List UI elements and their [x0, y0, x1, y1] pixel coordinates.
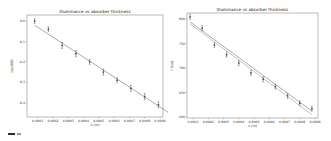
y-tick-label: 750 [179, 42, 185, 46]
toolbar-icon [8, 133, 15, 135]
x-tick-label: 0.0007 [124, 119, 135, 123]
data-point [89, 59, 91, 64]
x-tick-label: 0.0009 [154, 119, 165, 123]
data-point [226, 52, 228, 57]
x-tick-label: 0.0004 [78, 119, 89, 123]
fit-line [35, 25, 168, 115]
y-tick-label: -0.2 [19, 60, 25, 64]
x-tick-label: 0.0001 [188, 120, 199, 124]
x-tick-label: 0.0008 [139, 119, 150, 123]
y-tick-label: -0.1 [19, 40, 25, 44]
x-tick-label: 0.0006 [109, 119, 120, 123]
data-point [201, 26, 203, 31]
toolbar-icon [17, 133, 21, 135]
fit-line [190, 22, 312, 111]
x-tick-label: 0.0005 [248, 120, 259, 124]
x-axis-label: x (m) [90, 123, 100, 127]
x-tick-label: 0.0002 [47, 119, 58, 123]
y-tick-label: 650 [179, 91, 185, 95]
data-point [214, 42, 216, 47]
data-point [189, 14, 191, 19]
figure-left: Illuminance vs absorber thickness0.00010… [0, 0, 168, 141]
x-tick-label: 0.0001 [32, 119, 43, 123]
x-tick-label: 0.0002 [203, 120, 214, 124]
figure-right: Illuminance vs absorber thickness0.00010… [168, 0, 331, 141]
x-tick-label: 0.0004 [233, 120, 244, 124]
data-point [34, 19, 36, 24]
plot-frame [27, 15, 163, 117]
x-tick-label: 0.0006 [264, 120, 275, 124]
fit-line [190, 24, 312, 115]
x-tick-label: 0.0007 [279, 120, 290, 124]
chart-illuminance: Illuminance vs absorber thickness0.00010… [168, 0, 331, 141]
y-axis-label: log(I/I0) [10, 59, 14, 73]
x-tick-label: 0.0005 [93, 119, 104, 123]
y-axis-label: I (lux) [170, 60, 174, 70]
y-tick-label: -0.4 [19, 101, 25, 105]
plot-frame [187, 13, 318, 118]
x-tick-label: 0.0009 [309, 120, 320, 124]
output-toolbar [8, 133, 20, 136]
y-tick-label: 0.0 [20, 19, 25, 23]
data-point [238, 61, 240, 66]
x-tick-label: 0.0003 [63, 119, 74, 123]
y-tick-label: 800 [179, 17, 185, 21]
data-point [47, 27, 49, 32]
data-point [158, 102, 160, 108]
y-tick-label: 600 [179, 115, 185, 119]
chart-title: Illuminance vs absorber thickness [217, 7, 288, 12]
x-tick-label: 0.0003 [218, 120, 229, 124]
x-tick-label: 0.0008 [294, 120, 305, 124]
x-axis-label: x (m) [248, 124, 258, 128]
chart-title: Illuminance vs absorber thickness [59, 9, 130, 14]
y-tick-label: 700 [179, 66, 185, 70]
data-point [250, 70, 252, 75]
y-tick-label: -0.3 [19, 80, 25, 84]
chart-log-illuminance: Illuminance vs absorber thickness0.00010… [0, 0, 168, 141]
